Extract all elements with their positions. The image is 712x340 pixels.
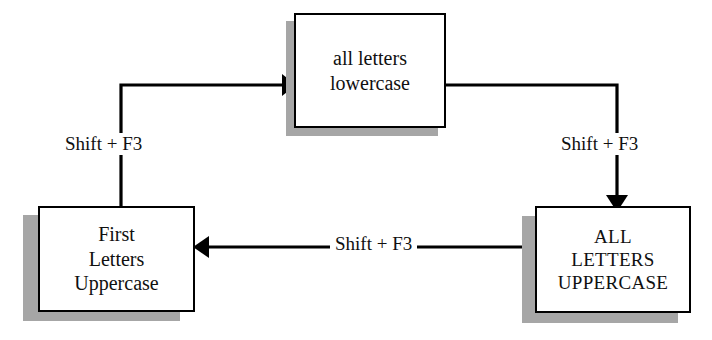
node-all-letters-uppercase-label: ALL LETTERS UPPERCASE [558,225,668,295]
arrowhead-left [193,236,209,258]
diagram-canvas: all letters lowercase First Letters Uppe… [0,0,712,340]
node-all-letters-uppercase[interactable]: ALL LETTERS UPPERCASE [535,206,691,313]
edge-label-first-to-lowercase: Shift + F3 [60,133,147,155]
node-first-letters-uppercase[interactable]: First Letters Uppercase [38,206,195,312]
edge-label-allcaps-to-first: Shift + F3 [330,233,417,255]
node-first-letters-uppercase-label: First Letters Uppercase [74,222,158,295]
edge-label-lowercase-to-allcaps: Shift + F3 [556,133,643,155]
node-lowercase-label: all letters lowercase [330,46,410,95]
edge-first-to-lowercase [121,74,296,206]
node-lowercase[interactable]: all letters lowercase [294,13,446,128]
